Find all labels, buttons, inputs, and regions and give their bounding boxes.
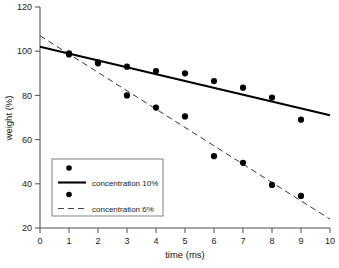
data-point — [298, 193, 304, 199]
y-tick-label: 60 — [22, 135, 32, 145]
data-point — [153, 104, 159, 110]
data-point — [211, 78, 217, 84]
chart-container: 20406080100120 012345678910 concentratio… — [0, 0, 339, 268]
legend-marker-icon — [66, 165, 72, 171]
x-tick-label: 10 — [325, 236, 335, 246]
data-point — [66, 51, 72, 57]
legend-marker-icon — [66, 192, 72, 198]
data-point — [269, 95, 275, 101]
data-point — [211, 153, 217, 159]
data-point — [124, 92, 130, 98]
legend-label: concentration 10% — [92, 179, 158, 188]
y-tick-label: 40 — [22, 179, 32, 189]
legend-label: concentration 6% — [92, 205, 154, 214]
data-point — [298, 117, 304, 123]
y-axis-title: weight (%) — [3, 96, 14, 142]
x-tick-label: 8 — [269, 236, 274, 246]
scatter-plot: 20406080100120 012345678910 concentratio… — [0, 0, 339, 268]
data-point — [240, 160, 246, 166]
y-tick-label: 20 — [22, 223, 32, 233]
x-tick-label: 1 — [66, 236, 71, 246]
x-tick-label: 6 — [211, 236, 216, 246]
data-point — [269, 182, 275, 188]
data-point — [182, 113, 188, 119]
data-point — [153, 68, 159, 74]
data-point — [182, 70, 188, 76]
chart-legend: concentration 10%concentration 6% — [52, 159, 163, 216]
data-point — [95, 60, 101, 66]
x-tick-label: 3 — [124, 236, 129, 246]
x-axis-title: time (ms) — [165, 249, 205, 260]
x-tick-label: 7 — [240, 236, 245, 246]
x-tick-label: 9 — [298, 236, 303, 246]
x-tick-label: 2 — [95, 236, 100, 246]
y-tick-label: 120 — [17, 2, 32, 12]
data-point — [240, 85, 246, 91]
y-tick-label: 100 — [17, 46, 32, 56]
x-tick-label: 4 — [153, 236, 158, 246]
y-tick-label: 80 — [22, 91, 32, 101]
x-tick-label: 0 — [37, 236, 42, 246]
x-tick-label: 5 — [182, 236, 187, 246]
data-point — [124, 64, 130, 70]
